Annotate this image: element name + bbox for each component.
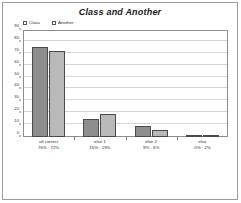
screenshot-page: Class and Another Class Another 01020304… bbox=[0, 0, 241, 203]
y-axis-tick-label: 40 bbox=[14, 83, 19, 87]
y-axis-tick bbox=[19, 124, 21, 125]
y-axis-tick bbox=[19, 100, 21, 101]
legend-label-class: Class bbox=[29, 20, 40, 25]
x-axis-value-label: 0% : 2% bbox=[194, 145, 210, 151]
legend-item-another[interactable]: Another bbox=[52, 20, 73, 25]
y-axis-tick-label: 90 bbox=[14, 24, 19, 28]
bar-another-0[interactable] bbox=[49, 51, 65, 137]
y-axis-tick bbox=[19, 64, 21, 65]
y-axis-tick bbox=[19, 76, 21, 77]
legend-item-class[interactable]: Class bbox=[23, 20, 40, 25]
x-axis-value-label: 76% : 72% bbox=[38, 145, 59, 151]
x-axis-value-label: 9% : 6% bbox=[143, 145, 159, 151]
bar-class-1[interactable] bbox=[83, 119, 99, 137]
y-axis-tick bbox=[19, 52, 21, 53]
x-axis-label-group: else0% : 2% bbox=[194, 139, 210, 151]
y-axis-tick bbox=[19, 136, 21, 137]
bar-class-2[interactable] bbox=[135, 126, 151, 137]
y-axis-tick-label: 10 bbox=[14, 119, 19, 123]
y-axis-tick-label: 20 bbox=[14, 107, 19, 111]
x-axis-label-group: else 115% : 19% bbox=[89, 139, 110, 151]
y-axis-tick-label: 0 bbox=[17, 131, 19, 135]
chart-title: Class and Another bbox=[4, 7, 236, 17]
y-axis-tick-label: 60 bbox=[14, 60, 19, 64]
legend-swatch-class bbox=[23, 21, 27, 25]
y-axis-tick bbox=[19, 112, 21, 113]
y-axis-tick bbox=[19, 88, 21, 89]
y-axis-tick-label: 50 bbox=[14, 72, 19, 76]
bar-chart: Class and Another Class Another 01020304… bbox=[4, 4, 236, 156]
y-axis-tick-label: 70 bbox=[14, 48, 19, 52]
bar-another-1[interactable] bbox=[100, 114, 116, 137]
x-axis-value-label: 15% : 19% bbox=[89, 145, 110, 151]
bar-class-0[interactable] bbox=[32, 47, 48, 137]
x-axis-label-group: all correct76% : 72% bbox=[38, 139, 59, 151]
legend-swatch-another bbox=[52, 21, 56, 25]
y-axis-tick-label: 30 bbox=[14, 95, 19, 99]
bar-another-2[interactable] bbox=[152, 130, 168, 137]
y-axis-tick bbox=[19, 40, 21, 41]
x-axis-labels: all correct76% : 72%else 115% : 19%else … bbox=[23, 139, 228, 159]
legend-label-another: Another bbox=[58, 20, 73, 25]
y-axis-tick bbox=[19, 29, 21, 30]
bar-series-layer bbox=[23, 30, 228, 137]
y-axis-tick-label: 80 bbox=[14, 36, 19, 40]
x-axis-label-group: else 29% : 6% bbox=[143, 139, 159, 151]
y-axis: 0102030405060708090 bbox=[4, 30, 21, 137]
chart-legend: Class Another bbox=[23, 20, 73, 25]
